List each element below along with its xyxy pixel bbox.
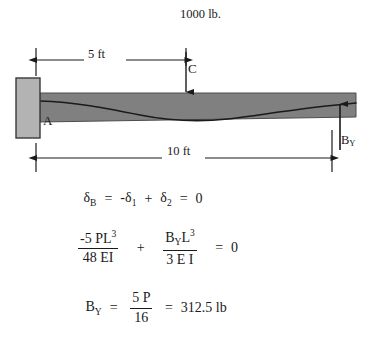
- reaction-by-subscript: Y: [349, 138, 355, 148]
- dimension-5ft-label: 5 ft: [88, 48, 105, 61]
- eq1-term-delta-2: δ2: [160, 190, 171, 208]
- eq2-frac1-numerator: -5 PL3: [78, 229, 118, 249]
- eq2-rhs: 0: [231, 240, 238, 256]
- eq1-equals-1: =: [104, 191, 112, 207]
- eq1-rhs: 0: [196, 191, 203, 207]
- dimension-5ft: [36, 48, 186, 76]
- eq3-fraction: 5 P 16: [130, 290, 152, 326]
- eq2-frac2-numerator: BYL3: [163, 228, 197, 251]
- load-label: 1000 lb.: [180, 8, 221, 21]
- point-a-label: A: [43, 114, 52, 127]
- eq2-frac1-denominator: 48 EI: [81, 249, 116, 267]
- eq3-result: 312.5 lb: [181, 300, 227, 316]
- eq1-equals-2: =: [180, 191, 188, 207]
- eq3-equals-1: =: [110, 300, 118, 316]
- eq3-equals-2: =: [165, 300, 173, 316]
- dimension-10ft-label: 10 ft: [167, 145, 190, 158]
- equation-superposition: -5 PL3 48 EI + BYL3 3 E I = 0: [78, 228, 240, 268]
- eq3-lhs-by: BY: [86, 299, 102, 317]
- equations-block: δB = -δ1 + δ2 = 0 -5 PL3 48 EI + BYL3: [0, 182, 371, 350]
- equation-result: BY = 5 P 16 = 312.5 lb: [84, 290, 228, 326]
- eq2-frac2-denominator: 3 E I: [164, 251, 195, 269]
- eq1-term-delta-1: -δ1: [120, 190, 136, 208]
- eq3-frac-numerator: 5 P: [130, 290, 152, 309]
- eq3-frac-denominator: 16: [132, 309, 150, 327]
- fixed-support-block: [16, 78, 40, 138]
- reaction-by-label: BY: [341, 134, 355, 147]
- eq1-delta-b: δB: [84, 190, 97, 208]
- point-c-label: C: [188, 62, 197, 75]
- beam-deflection-figure: 1000 lb. 5 ft 10 ft C A BY δB = -δ1 + δ2…: [0, 0, 371, 350]
- eq2-fraction-reaction-term: BYL3 3 E I: [163, 228, 197, 268]
- eq2-plus: +: [137, 240, 145, 256]
- equation-compatibility: δB = -δ1 + δ2 = 0: [82, 190, 204, 208]
- eq2-fraction-load-term: -5 PL3 48 EI: [78, 229, 118, 267]
- eq1-plus: +: [144, 191, 152, 207]
- eq2-equals: =: [215, 240, 223, 256]
